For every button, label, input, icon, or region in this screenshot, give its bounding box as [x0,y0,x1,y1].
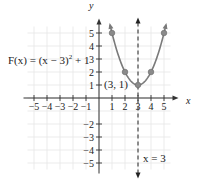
y-tick-label: −5 [83,158,94,169]
curve-arrow-icon [109,23,114,29]
vertex-label: (3, 1) [104,78,128,91]
y-axis-label: y [88,0,94,11]
y-tick-label: 5 [89,28,94,39]
y-axis-arrow-icon [97,19,102,25]
function-label-main: F(x) = (x − 3) [8,54,69,67]
function-label: F(x) = (x − 3)2 + 1 [8,53,89,67]
x-tick-label: 4 [149,101,154,112]
y-tick-label: −4 [83,145,94,156]
symmetry-arrow-up-icon [136,18,141,24]
x-tick-label: −1 [81,101,92,112]
x-tick-label: 2 [123,101,128,112]
symmetry-arrow-down-icon [136,173,141,179]
curve-arrow-icon [163,23,168,29]
x-axis-arrow-icon [173,96,179,101]
x-tick-label: 1 [110,101,115,112]
x-axis-label: x [185,95,191,106]
x-tick-label: −5 [29,101,40,112]
data-point [135,82,141,88]
y-tick-label: 2 [89,67,94,78]
data-point [148,69,154,75]
y-tick-label: 4 [89,41,94,52]
x-tick-label: −3 [55,101,66,112]
y-tick-label: 3 [89,54,94,65]
y-tick-label: −2 [83,119,94,130]
x-tick-label: −4 [42,101,53,112]
x-tick-label: 5 [162,101,167,112]
data-point [161,30,167,36]
x-tick-label: −2 [68,101,79,112]
parabola-chart: −5−4−3−2−11234554321−2−3−4−5 y x F(x) = … [0,0,201,188]
y-tick-label: 1 [89,80,94,91]
data-point [109,30,115,36]
data-point [122,69,128,75]
function-label-tail: + 1 [72,54,89,66]
symmetry-label: x = 3 [143,152,166,164]
y-tick-label: −3 [83,132,94,143]
